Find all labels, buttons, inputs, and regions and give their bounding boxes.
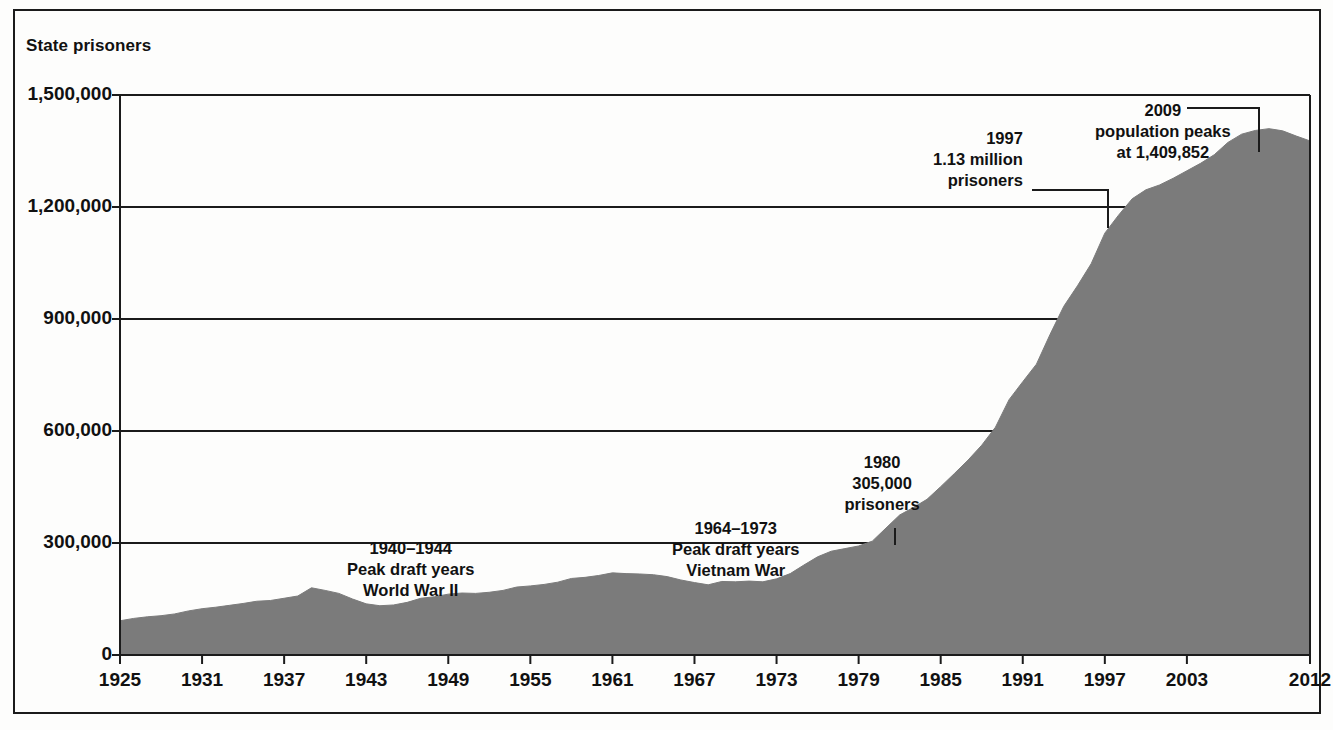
x-axis-tick-label: 2012 [1265,669,1333,691]
x-axis-tick-label: 1955 [485,669,575,691]
y-axis-tick-label: 300,000 [0,531,112,553]
annotation-line: Peak draft years [347,559,475,580]
annotation-line: 1940–1944 [347,538,475,559]
x-axis-tick-label: 1949 [403,669,493,691]
x-axis-tick-label: 1979 [814,669,904,691]
annotation-line: 1.13 million [933,149,1023,170]
x-axis-tick-label: 1973 [732,669,822,691]
x-axis-tick-label: 1925 [75,669,165,691]
y-axis-tick-label: 1,200,000 [0,195,112,217]
annotation-2009: 2009population peaksat 1,409,852 [1095,100,1231,163]
x-axis-tick-label: 1961 [567,669,657,691]
x-axis-tick-label: 1985 [896,669,986,691]
annotation-line: prisoners [845,494,920,515]
annotation-leader-line [1032,190,1108,228]
annotation-line: World War II [347,580,475,601]
annotation-line: 1964–1973 [672,518,800,539]
annotation-line: population peaks [1095,121,1231,142]
annotation-line: 1980 [845,452,920,473]
x-axis-tick-label: 1937 [239,669,329,691]
annotation-1980: 1980305,000prisoners [845,452,920,515]
annotation-wwii: 1940–1944Peak draft yearsWorld War II [347,538,475,601]
x-axis-tick-label: 1931 [157,669,247,691]
y-axis-tick-label: 600,000 [0,419,112,441]
annotation-vietnam: 1964–1973Peak draft yearsVietnam War [672,518,800,581]
annotation-line: prisoners [933,170,1023,191]
x-axis-tick-label: 2003 [1142,669,1232,691]
annotation-line: Peak draft years [672,539,800,560]
annotation-line: 1997 [933,128,1023,149]
x-axis-tick-label: 1997 [1060,669,1150,691]
x-axis-tick-label: 1967 [649,669,739,691]
annotation-line: 2009 [1095,100,1231,121]
x-axis-tick-label: 1991 [978,669,1068,691]
y-axis-tick-label: 1,500,000 [0,83,112,105]
annotation-1997: 19971.13 millionprisoners [933,128,1023,191]
annotation-line: at 1,409,852 [1095,142,1231,163]
annotation-line: 305,000 [845,473,920,494]
figure-container: State prisoners 0300,000600,000900,0001,… [0,0,1333,730]
y-axis-tick-label: 900,000 [0,307,112,329]
y-axis-tick-label: 0 [0,643,112,665]
x-axis-tick-label: 1943 [321,669,411,691]
annotation-line: Vietnam War [672,560,800,581]
